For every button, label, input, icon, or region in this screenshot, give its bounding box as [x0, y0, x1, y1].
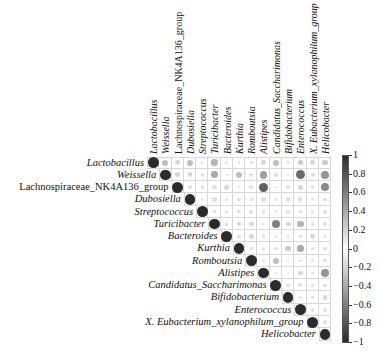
row-label: Lachnospiraceae_NK4A136_group: [19, 181, 168, 193]
correlation-dot: [270, 280, 281, 291]
correlation-dot: [286, 185, 289, 188]
correlation-dot: [323, 222, 326, 225]
correlation-dot: [321, 269, 329, 277]
correlation-dot: [221, 231, 232, 242]
correlation-dot: [275, 198, 278, 201]
correlation-dot: [236, 172, 242, 178]
correlation-dot: [286, 197, 290, 201]
column-label: Helicobacter: [320, 101, 331, 153]
correlation-dot: [201, 173, 204, 176]
colorbar-tick: [349, 174, 352, 175]
correlation-dot: [299, 210, 302, 213]
correlation-dot: [250, 161, 253, 164]
correlation-dot: [260, 171, 267, 178]
row-label: X. Eubacterium_xylanophilum_group: [145, 316, 303, 328]
colorbar-tick: [349, 342, 352, 343]
correlation-dot: [299, 235, 302, 238]
correlation-dot: [209, 219, 220, 230]
correlation-dot: [275, 235, 278, 238]
correlation-dot: [323, 247, 326, 250]
colorbar-tick-label: 0.2: [353, 225, 366, 235]
correlation-dot: [262, 223, 265, 226]
correlation-dot: [211, 159, 217, 165]
correlation-dot: [160, 170, 171, 181]
column-label: Kurthia: [234, 122, 245, 153]
colorbar-tick: [349, 286, 352, 287]
correlation-dot: [185, 194, 196, 205]
correlation-heatmap: LactobacillusWeissellaLachnospiraceae_NK…: [0, 0, 386, 355]
correlation-dot: [297, 245, 304, 252]
correlation-dot: [321, 171, 329, 179]
correlation-dot: [226, 174, 229, 177]
correlation-dot: [237, 198, 240, 201]
column-label: Dubosiella: [185, 110, 196, 154]
correlation-dot: [298, 185, 303, 190]
correlation-dot: [324, 235, 327, 238]
correlation-dot: [323, 284, 326, 287]
correlation-dot: [320, 329, 331, 340]
correlation-dot: [261, 160, 266, 165]
row-label: Bifidobacterium: [211, 291, 279, 303]
correlation-dot: [259, 183, 268, 192]
colorbar-tick: [349, 211, 352, 212]
column-label: Lachnospiraceae_NK4A136_group: [173, 11, 184, 153]
correlation-dot: [272, 220, 280, 228]
column-label: Enterococcus: [295, 99, 306, 153]
correlation-dot: [311, 222, 314, 225]
column-label: X. Eubacterium_xylanophilum_group: [308, 3, 319, 154]
correlation-dot: [321, 183, 329, 191]
correlation-dot: [234, 243, 245, 254]
correlation-dot: [273, 160, 279, 166]
correlation-dot: [286, 210, 290, 214]
correlation-dot: [310, 234, 315, 239]
correlation-dot: [246, 255, 257, 266]
colorbar-tick-label: −0.8: [353, 318, 371, 328]
correlation-dot: [311, 247, 314, 250]
colorbar-tick: [349, 305, 352, 306]
column-label: Candidatus_Saccharimonas: [271, 41, 282, 154]
correlation-dot: [187, 160, 193, 166]
colorbar-tick: [349, 230, 352, 231]
correlation-dot: [323, 308, 327, 312]
correlation-dot: [172, 182, 183, 193]
correlation-dot: [285, 246, 290, 251]
column-label: Weissella: [160, 116, 171, 153]
colorbar: [342, 155, 349, 343]
correlation-dot: [261, 197, 265, 201]
correlation-dot: [249, 234, 254, 239]
correlation-dot: [311, 173, 315, 177]
correlation-dot: [273, 258, 279, 264]
column-label: Bifidobacterium: [283, 89, 294, 154]
colorbar-tick-label: −0.6: [353, 300, 371, 310]
correlation-dot: [237, 235, 240, 238]
row-label: Bacteroides: [168, 230, 218, 242]
colorbar-tick: [349, 323, 352, 324]
correlation-dot: [212, 185, 216, 189]
correlation-dot: [224, 185, 229, 190]
column-label: Bacteroides: [222, 106, 233, 153]
correlation-dot: [295, 304, 306, 315]
correlation-dot: [249, 222, 254, 227]
column-label: Lactobacillus: [148, 99, 159, 153]
column-label: Alistipes: [258, 119, 269, 153]
column-label: Streptococcus: [197, 98, 208, 154]
correlation-dot: [262, 235, 265, 238]
correlation-dot: [212, 197, 216, 201]
correlation-dot: [275, 210, 278, 213]
row-label: Candidatus_Saccharimonas: [148, 279, 266, 291]
row-label: Streptococcus: [135, 206, 194, 218]
correlation-dot: [299, 260, 302, 263]
row-label: Turicibacter: [153, 218, 205, 230]
correlation-dot: [323, 210, 327, 214]
colorbar-tick-label: −1: [353, 337, 364, 347]
colorbar-tick: [349, 192, 352, 193]
row-label: Weissella: [117, 169, 156, 181]
correlation-dot: [287, 235, 290, 238]
correlation-dot: [307, 317, 318, 328]
colorbar-tick-label: 0.8: [353, 169, 366, 179]
correlation-dot: [311, 308, 314, 311]
correlation-dot: [286, 284, 289, 287]
correlation-dot: [274, 247, 277, 250]
colorbar-tick: [349, 267, 352, 268]
colorbar-tick-label: 0.6: [353, 187, 366, 197]
